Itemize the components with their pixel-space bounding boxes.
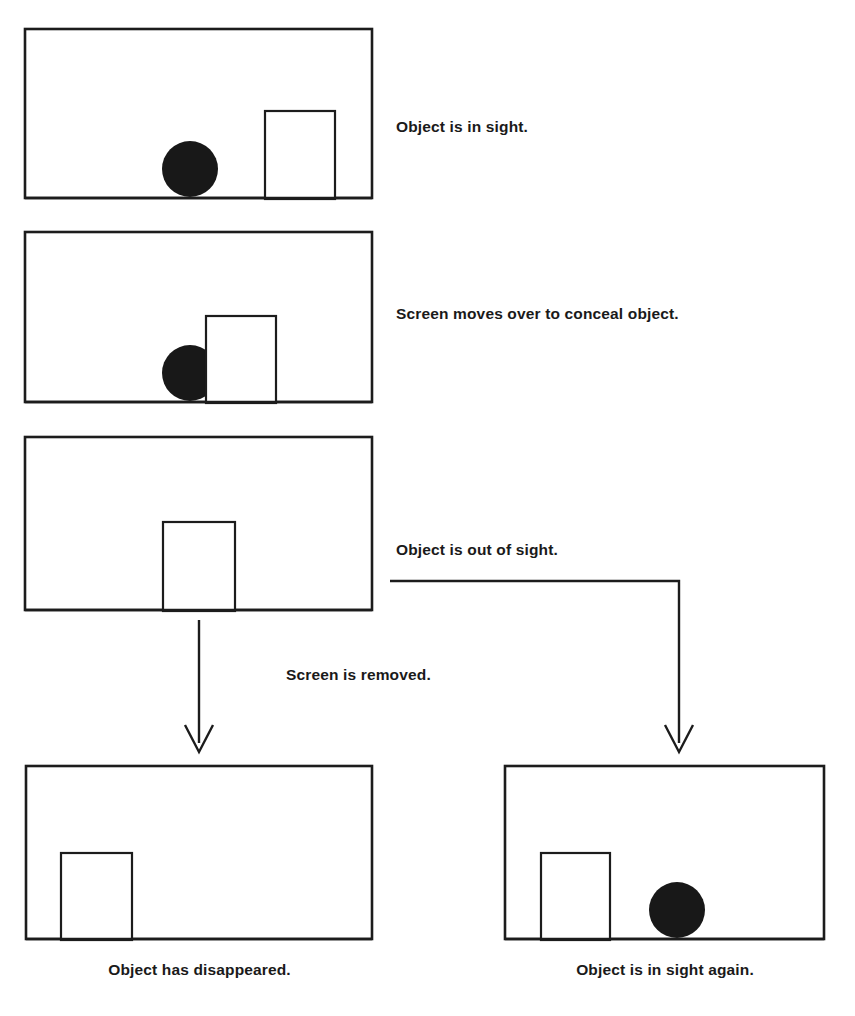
panel-3-screen [163,522,235,611]
panel-1-screen [265,111,335,199]
caption-object-is-in-sight-again: Object is in sight again. [505,962,825,978]
out-of-sight-arrow-shaft [390,581,679,743]
panel-5-group [505,766,824,940]
panel-1-group [25,29,372,199]
panel-5-object-circle [649,882,705,938]
label-object-is-out-of-sight: Object is out of sight. [396,542,558,558]
panel-4-group [26,766,372,940]
panel-3-group [25,437,372,611]
out-of-sight-elbow-arrow [390,581,693,752]
screen-removed-arrow [185,620,213,752]
panel-4-screen [61,853,132,940]
panel-2-group [25,232,372,403]
panel-2-screen [206,316,276,403]
caption-object-has-disappeared: Object has disappeared. [26,962,373,978]
panel-5-screen [541,853,610,940]
label-screen-moves-over-to-conceal-object: Screen moves over to conceal object. [396,306,679,322]
diagram-canvas [0,0,855,1016]
label-screen-is-removed: Screen is removed. [286,667,431,683]
diagram-root: Object is in sight. Screen moves over to… [0,0,855,1016]
panel-1-object-circle [162,141,218,197]
label-object-is-in-sight: Object is in sight. [396,119,528,135]
